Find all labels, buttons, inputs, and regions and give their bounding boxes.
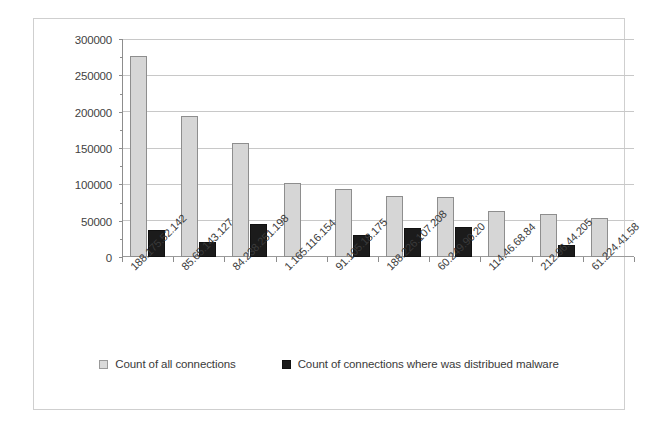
legend-item-all-connections: Count of all connections xyxy=(99,358,235,370)
value-axis-tick: 300000 xyxy=(119,39,123,40)
value-axis-tick-label: 200000 xyxy=(75,107,112,119)
plot-area: 188.175.52.14285.65.143.12784.238.251.19… xyxy=(122,40,634,257)
category-axis-tick xyxy=(583,257,584,262)
value-axis-tick: 150000 xyxy=(119,148,123,149)
category-axis-tick xyxy=(327,257,328,262)
bar-all-connections xyxy=(181,116,198,257)
value-axis: 050000100000150000200000250000300000 xyxy=(122,40,123,258)
value-axis-tick-label: 0 xyxy=(106,252,112,264)
category-axis-tick xyxy=(378,257,379,262)
value-axis-tick: 200000 xyxy=(119,112,123,113)
bar-all-connections xyxy=(130,56,147,257)
category-axis-tick xyxy=(480,257,481,262)
value-axis-tick-label: 250000 xyxy=(75,70,112,82)
value-axis-minor-tick xyxy=(120,203,123,204)
category-axis-tick xyxy=(276,257,277,262)
chart-legend: Count of all connections Count of connec… xyxy=(33,358,625,370)
legend-swatch-icon-all-connections xyxy=(99,360,108,369)
legend-label-all-connections: Count of all connections xyxy=(115,358,235,370)
category-axis-tick xyxy=(173,257,174,262)
category-axis-tick xyxy=(634,257,635,262)
value-axis-minor-tick xyxy=(120,94,123,95)
value-axis-tick-label: 100000 xyxy=(75,179,112,191)
bar-group xyxy=(122,40,173,257)
value-axis-tick-label: 300000 xyxy=(75,34,112,46)
value-axis-tick: 0 xyxy=(119,257,123,258)
value-axis-tick: 50000 xyxy=(119,221,123,222)
value-axis-minor-tick xyxy=(120,57,123,58)
value-axis-minor-tick xyxy=(120,130,123,131)
legend-label-malware-connections: Count of connections where was distribue… xyxy=(298,358,559,370)
legend-swatch-icon-malware-connections xyxy=(282,360,291,369)
category-axis-tick xyxy=(532,257,533,262)
value-axis-tick-label: 150000 xyxy=(75,143,112,155)
legend-item-malware-connections: Count of connections where was distribue… xyxy=(282,358,559,370)
bar-group xyxy=(532,40,583,257)
value-axis-tick: 100000 xyxy=(119,184,123,185)
value-axis-minor-tick xyxy=(120,166,123,167)
chart-frame: 188.175.52.14285.65.143.12784.238.251.19… xyxy=(33,18,625,410)
value-axis-tick-label: 50000 xyxy=(81,216,112,228)
value-axis-tick: 250000 xyxy=(119,75,123,76)
category-axis-tick xyxy=(224,257,225,262)
category-axis-tick xyxy=(429,257,430,262)
value-axis-minor-tick xyxy=(120,239,123,240)
bar-all-connections xyxy=(232,143,249,257)
